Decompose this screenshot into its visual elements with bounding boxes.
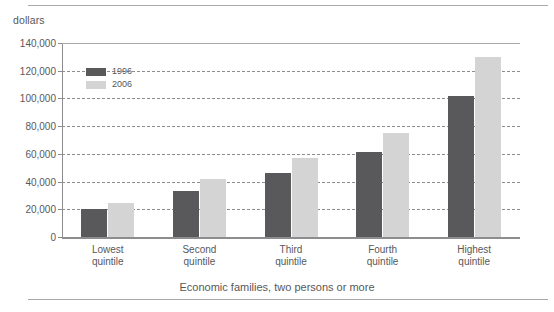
chart-figure: dollars 140,000120,000100,00080,00060,00… bbox=[0, 0, 554, 312]
x-axis-line bbox=[62, 237, 520, 239]
bar bbox=[292, 158, 318, 237]
bar bbox=[173, 191, 199, 237]
legend-swatch-icon bbox=[86, 81, 106, 89]
y-axis-tick-label: 120,000 bbox=[4, 65, 56, 76]
y-axis-tick-labels: 140,000120,000100,00080,00060,00040,0002… bbox=[0, 0, 56, 312]
bar bbox=[383, 133, 409, 237]
top-divider-rule bbox=[28, 5, 548, 6]
bar-group bbox=[265, 43, 318, 237]
y-axis-tick-label: 60,000 bbox=[4, 148, 56, 159]
legend-label: 1996 bbox=[112, 66, 132, 77]
y-axis-tick-label: 80,000 bbox=[4, 121, 56, 132]
y-axis-tick-label: 0 bbox=[4, 232, 56, 243]
x-axis-category-label-line: Highest bbox=[419, 244, 529, 256]
x-axis-category-label: Highestquintile bbox=[419, 244, 529, 268]
bottom-divider-rule bbox=[28, 299, 548, 300]
bar-group bbox=[356, 43, 409, 237]
bar-group bbox=[448, 43, 501, 237]
bar bbox=[475, 57, 501, 237]
chart-caption: Economic families, two persons or more bbox=[0, 281, 554, 293]
legend-label: 2006 bbox=[112, 79, 132, 90]
y-axis-tick-label: 100,000 bbox=[4, 93, 56, 104]
y-axis-tick-label: 40,000 bbox=[4, 176, 56, 187]
y-axis-tick-label: 140,000 bbox=[4, 38, 56, 49]
legend-item: 2006 bbox=[86, 79, 132, 90]
chart-legend: 19962006 bbox=[86, 66, 132, 92]
bar bbox=[81, 209, 107, 237]
x-axis-category-label-line: quintile bbox=[419, 256, 529, 268]
y-axis-tick-label: 20,000 bbox=[4, 204, 56, 215]
bar bbox=[108, 203, 134, 237]
bar-group bbox=[173, 43, 226, 237]
bar bbox=[448, 96, 474, 237]
legend-item: 1996 bbox=[86, 66, 132, 77]
bar bbox=[265, 173, 291, 237]
bar bbox=[356, 152, 382, 237]
legend-swatch-icon bbox=[86, 68, 106, 76]
bar bbox=[200, 179, 226, 237]
